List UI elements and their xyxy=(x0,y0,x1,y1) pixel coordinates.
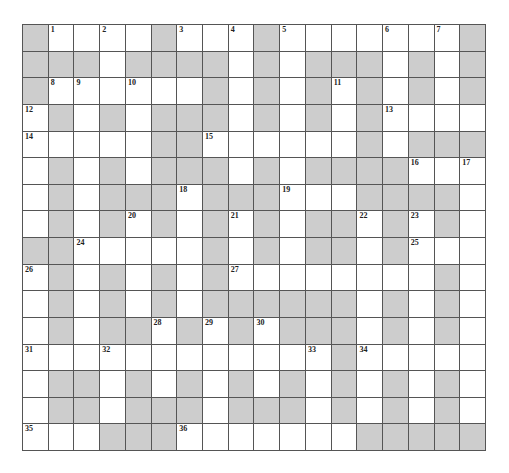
answer-cell[interactable] xyxy=(254,265,279,291)
answer-cell[interactable] xyxy=(126,158,151,184)
answer-cell[interactable] xyxy=(126,238,151,264)
answer-cell[interactable] xyxy=(23,398,48,424)
answer-cell[interactable]: 8 xyxy=(49,78,74,104)
answer-cell[interactable] xyxy=(460,398,485,424)
answer-cell[interactable]: 18 xyxy=(177,185,202,211)
answer-cell[interactable]: 14 xyxy=(23,132,48,158)
answer-cell[interactable] xyxy=(49,345,74,371)
answer-cell[interactable] xyxy=(383,345,408,371)
answer-cell[interactable]: 21 xyxy=(229,211,254,237)
answer-cell[interactable]: 32 xyxy=(100,345,125,371)
answer-cell[interactable]: 11 xyxy=(332,78,357,104)
answer-cell[interactable] xyxy=(23,211,48,237)
answer-cell[interactable] xyxy=(74,345,99,371)
answer-cell[interactable] xyxy=(74,185,99,211)
answer-cell[interactable]: 24 xyxy=(74,238,99,264)
answer-cell[interactable] xyxy=(383,78,408,104)
answer-cell[interactable]: 9 xyxy=(74,78,99,104)
answer-cell[interactable] xyxy=(229,52,254,78)
answer-cell[interactable]: 17 xyxy=(460,158,485,184)
answer-cell[interactable] xyxy=(74,318,99,344)
answer-cell[interactable] xyxy=(126,345,151,371)
answer-cell[interactable] xyxy=(357,238,382,264)
answer-cell[interactable] xyxy=(49,424,74,450)
answer-cell[interactable] xyxy=(460,211,485,237)
answer-cell[interactable]: 34 xyxy=(357,345,382,371)
answer-cell[interactable]: 20 xyxy=(126,211,151,237)
answer-cell[interactable] xyxy=(435,105,460,131)
answer-cell[interactable] xyxy=(152,78,177,104)
answer-cell[interactable] xyxy=(229,345,254,371)
answer-cell[interactable] xyxy=(306,132,331,158)
answer-cell[interactable] xyxy=(332,185,357,211)
answer-cell[interactable] xyxy=(100,132,125,158)
answer-cell[interactable] xyxy=(306,398,331,424)
answer-cell[interactable] xyxy=(177,78,202,104)
answer-cell[interactable]: 13 xyxy=(383,105,408,131)
answer-cell[interactable]: 4 xyxy=(229,25,254,51)
answer-cell[interactable] xyxy=(74,25,99,51)
answer-cell[interactable]: 15 xyxy=(203,132,228,158)
answer-cell[interactable] xyxy=(203,424,228,450)
answer-cell[interactable] xyxy=(100,78,125,104)
answer-cell[interactable] xyxy=(126,132,151,158)
answer-cell[interactable] xyxy=(460,238,485,264)
answer-cell[interactable] xyxy=(460,345,485,371)
answer-cell[interactable] xyxy=(383,265,408,291)
answer-cell[interactable] xyxy=(229,132,254,158)
answer-cell[interactable] xyxy=(409,291,434,317)
answer-cell[interactable] xyxy=(280,132,305,158)
answer-cell[interactable] xyxy=(203,371,228,397)
answer-cell[interactable] xyxy=(100,398,125,424)
answer-cell[interactable] xyxy=(280,211,305,237)
answer-cell[interactable] xyxy=(74,158,99,184)
answer-cell[interactable]: 2 xyxy=(100,25,125,51)
answer-cell[interactable] xyxy=(203,25,228,51)
answer-cell[interactable] xyxy=(280,105,305,131)
answer-cell[interactable] xyxy=(177,345,202,371)
answer-cell[interactable]: 7 xyxy=(435,25,460,51)
answer-cell[interactable]: 33 xyxy=(306,345,331,371)
answer-cell[interactable] xyxy=(332,265,357,291)
answer-cell[interactable]: 6 xyxy=(383,25,408,51)
answer-cell[interactable] xyxy=(100,238,125,264)
answer-cell[interactable] xyxy=(409,25,434,51)
answer-cell[interactable] xyxy=(460,105,485,131)
answer-cell[interactable]: 35 xyxy=(23,424,48,450)
answer-cell[interactable] xyxy=(229,78,254,104)
answer-cell[interactable] xyxy=(254,345,279,371)
answer-cell[interactable] xyxy=(229,424,254,450)
answer-cell[interactable]: 30 xyxy=(254,318,279,344)
answer-cell[interactable] xyxy=(435,345,460,371)
answer-cell[interactable] xyxy=(126,25,151,51)
answer-cell[interactable] xyxy=(409,398,434,424)
answer-cell[interactable] xyxy=(332,25,357,51)
answer-cell[interactable] xyxy=(409,105,434,131)
answer-cell[interactable] xyxy=(126,265,151,291)
answer-cell[interactable] xyxy=(383,132,408,158)
answer-cell[interactable] xyxy=(74,211,99,237)
answer-cell[interactable] xyxy=(306,371,331,397)
answer-cell[interactable] xyxy=(435,52,460,78)
answer-cell[interactable] xyxy=(409,371,434,397)
answer-cell[interactable] xyxy=(100,371,125,397)
answer-cell[interactable] xyxy=(280,424,305,450)
answer-cell[interactable]: 29 xyxy=(203,318,228,344)
answer-cell[interactable] xyxy=(357,291,382,317)
answer-cell[interactable] xyxy=(177,238,202,264)
answer-cell[interactable] xyxy=(177,265,202,291)
answer-cell[interactable] xyxy=(332,105,357,131)
answer-cell[interactable]: 19 xyxy=(280,185,305,211)
answer-cell[interactable] xyxy=(280,52,305,78)
answer-cell[interactable]: 36 xyxy=(177,424,202,450)
answer-cell[interactable] xyxy=(177,291,202,317)
answer-cell[interactable] xyxy=(409,345,434,371)
answer-cell[interactable] xyxy=(357,398,382,424)
answer-cell[interactable] xyxy=(460,371,485,397)
answer-cell[interactable] xyxy=(74,291,99,317)
answer-cell[interactable] xyxy=(280,158,305,184)
answer-cell[interactable] xyxy=(23,371,48,397)
answer-cell[interactable]: 31 xyxy=(23,345,48,371)
answer-cell[interactable]: 26 xyxy=(23,265,48,291)
answer-cell[interactable] xyxy=(254,371,279,397)
